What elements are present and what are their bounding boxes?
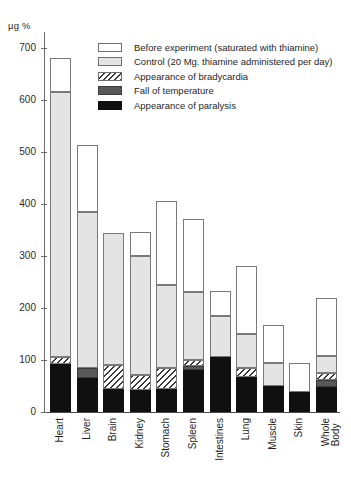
bar-segment-fall [316, 380, 337, 387]
y-tick-label: 700 [6, 42, 36, 53]
x-axis-line [44, 412, 340, 413]
bar-stomach [156, 201, 177, 412]
bar-segment-brady [50, 357, 71, 364]
bar-kidney [130, 232, 151, 412]
bar-segment-before [263, 325, 284, 362]
bar-segment-fall [77, 368, 98, 378]
bar-segment-paralysis [156, 389, 177, 412]
bar-segment-control [77, 212, 98, 368]
bar-segment-control [130, 256, 151, 375]
bar-segment-control [103, 233, 124, 366]
legend-label: Appearance of paralysis [134, 100, 236, 111]
legend-item-paralysis: Appearance of paralysis [98, 98, 333, 113]
y-tick-label: 500 [6, 146, 36, 157]
x-axis-label-intestines: Intestines [215, 418, 225, 461]
bar-segment-before [130, 232, 151, 256]
legend-label: Appearance of bradycardia [134, 71, 248, 82]
bar-segment-brady [183, 360, 204, 366]
bar-segment-control [263, 363, 284, 386]
bar-segment-paralysis [50, 364, 71, 412]
x-axis-label-brain: Brain [108, 418, 118, 441]
y-tick-label: 400 [6, 198, 36, 209]
legend-swatch-control-icon [98, 57, 122, 66]
bar-segment-paralysis [263, 386, 284, 412]
bar-segment-control [316, 356, 337, 373]
y-tick-mark [41, 100, 47, 101]
bar-segment-control [236, 334, 257, 368]
bar-segment-brady [316, 373, 337, 380]
bar-segment-before [289, 363, 310, 393]
bar-segment-before [50, 58, 71, 92]
x-axis-label-spleen: Spleen [188, 418, 198, 449]
y-tick-mark [41, 256, 47, 257]
y-tick-label: 200 [6, 302, 36, 313]
bar-segment-before [156, 201, 177, 284]
x-axis-label-skin: Skin [294, 418, 304, 437]
bar-segment-before [316, 298, 337, 357]
legend-label: Before experiment (saturated with thiami… [134, 42, 318, 53]
legend-item-brady: Appearance of bradycardia [98, 69, 333, 84]
bar-segment-before [210, 291, 231, 315]
bar-segment-brady [103, 365, 124, 388]
legend-item-before: Before experiment (saturated with thiami… [98, 40, 333, 55]
bar-segment-before [236, 266, 257, 334]
y-axis-unit-label: µg % [8, 20, 31, 31]
y-tick-label: 100 [6, 354, 36, 365]
y-tick-label: 300 [6, 250, 36, 261]
y-tick-mark [41, 204, 47, 205]
chart-container: µg % 0100200300400500600700 HeartLiverBr… [0, 0, 351, 480]
bar-lung [236, 266, 257, 412]
y-tick-label: 600 [6, 94, 36, 105]
y-tick-mark [41, 412, 47, 413]
x-axis-label-lung: Lung [241, 418, 251, 440]
bar-segment-paralysis [103, 389, 124, 412]
legend-label: Fall of temperature [134, 85, 214, 96]
bar-segment-before [183, 219, 204, 293]
bar-segment-control [156, 285, 177, 368]
bar-segment-paralysis [130, 390, 151, 412]
x-axis-label-stomach: Stomach [161, 418, 171, 457]
bar-segment-paralysis [289, 392, 310, 412]
x-axis-label-liver: Liver [82, 418, 92, 440]
bar-segment-before [77, 145, 98, 212]
y-tick-mark [41, 48, 47, 49]
legend-label: Control (20 Mg. thiamine administered pe… [134, 56, 333, 67]
bar-whole-body [316, 298, 337, 412]
legend-item-control: Control (20 Mg. thiamine administered pe… [98, 55, 333, 70]
bar-segment-paralysis [183, 370, 204, 412]
legend-swatch-paralysis-icon [98, 101, 122, 110]
bar-segment-brady [130, 375, 151, 391]
bar-segment-control [210, 316, 231, 358]
legend-swatch-brady-icon [98, 72, 122, 81]
bar-segment-fall [183, 366, 204, 370]
legend-item-fall: Fall of temperature [98, 84, 333, 99]
y-axis-line [44, 32, 45, 413]
x-axis-label-muscle: Muscle [268, 418, 278, 450]
y-tick-label: 0 [6, 406, 36, 417]
chart-legend: Before experiment (saturated with thiami… [98, 40, 333, 113]
legend-swatch-fall-icon [98, 86, 122, 95]
bar-segment-control [50, 92, 71, 357]
bar-heart [50, 58, 71, 412]
legend-swatch-before-icon [98, 43, 122, 52]
y-tick-mark [41, 360, 47, 361]
x-axis-label-whole-body: Whole Body [321, 418, 341, 446]
y-tick-mark [41, 308, 47, 309]
bar-spleen [183, 219, 204, 412]
x-axis-label-heart: Heart [55, 418, 65, 442]
bar-segment-paralysis [210, 357, 231, 412]
bar-intestines [210, 291, 231, 412]
y-tick-mark [41, 152, 47, 153]
bar-brain [103, 233, 124, 412]
bar-segment-brady [236, 368, 257, 377]
x-axis-label-kidney: Kidney [135, 418, 145, 449]
bar-segment-paralysis [236, 377, 257, 412]
bar-segment-brady [156, 368, 177, 389]
bar-muscle [263, 325, 284, 412]
bar-segment-paralysis [77, 378, 98, 412]
bar-skin [289, 363, 310, 412]
bar-segment-paralysis [316, 387, 337, 412]
bar-segment-control [183, 292, 204, 360]
bar-liver [77, 145, 98, 412]
